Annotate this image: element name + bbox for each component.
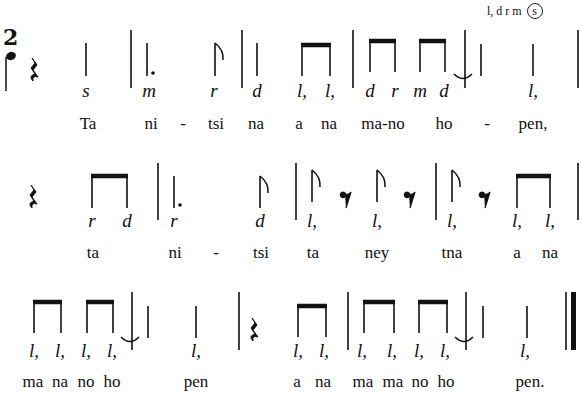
solfege-syllable: l, [528,80,538,102]
lyric-syllable: na [248,114,264,134]
solfege-syllable: m [413,80,427,102]
solfege-syllable: l, [55,340,65,362]
lyric-syllable: pen. [516,372,545,392]
lyric-syllable: ho [438,372,455,392]
lyric-syllable: a [513,243,521,263]
eighth-flag-icon [215,43,223,60]
tie-icon [455,337,473,342]
solfege-syllable: l, [81,340,91,362]
solfege-syllable: l, [325,80,335,102]
solfege-syllable: l, [293,340,303,362]
solfege-syllable: l, [29,340,39,362]
eighth-rest-icon [404,192,415,208]
solfege-syllable: l, [440,340,450,362]
lyric-syllable: na [52,372,68,392]
solfege-syllable: l, [414,340,424,362]
lyric-syllable: a [295,114,303,134]
solfege-syllable: l, [512,210,522,232]
solfege-syllable: l, [191,340,201,362]
solfege-syllable: l, [387,340,397,362]
lyric-syllable: no [78,372,95,392]
dot-icon [151,71,155,75]
staff-row-1 [5,30,578,91]
quarter-rest-icon [31,58,38,81]
solfege-syllable: d [122,210,132,232]
lyric-syllable: ma-no [361,114,404,134]
solfege-syllable: l, [307,210,317,232]
quarter-rest-icon [30,185,37,208]
lyric-syllable: tna [442,243,463,263]
lyric-syllable: ho [104,372,121,392]
solfege-syllable: d [252,80,262,102]
solfege-syllable: r [170,210,177,232]
solfege-syllable: r [210,80,217,102]
solfege-syllable: l, [297,80,307,102]
lyric-syllable: na [542,243,558,263]
lyric-syllable: tsi [208,114,224,134]
lyric-syllable: - [213,243,219,263]
solfege-syllable: d [439,80,449,102]
lyric-syllable: tsi [253,243,269,263]
lyric-syllable: ta [307,243,319,263]
eighth-rest-icon [340,192,351,208]
eighth-rest-icon [479,192,490,208]
solfege-syllable: l, [545,210,555,232]
solfege-syllable: l, [520,340,530,362]
solfege-syllable: l, [319,340,329,362]
final-barline-thick [571,292,576,350]
lyric-syllable: ma [383,372,404,392]
solfege-syllable: l, [372,210,382,232]
tie-icon [454,74,472,79]
lyric-syllable: na [315,372,331,392]
solfege-syllable: r [391,80,398,102]
lyric-syllable: pen, [519,114,548,134]
lyric-syllable: - [484,114,490,134]
lyric-syllable: ni [168,243,181,263]
quarter-rest-icon [251,318,258,341]
solfege-syllable: l, [447,210,457,232]
lyric-syllable: a [293,372,301,392]
solfege-syllable: m [142,80,156,102]
stick-notation-score [0,0,582,395]
tie-icon [121,337,139,342]
solfege-syllable: d [255,210,265,232]
solfege-syllable: r [88,210,95,232]
solfege-syllable: l, [357,340,367,362]
lyric-syllable: ma [23,372,44,392]
lyric-syllable: ney [365,243,390,263]
lyric-syllable: Ta [80,114,97,134]
lyric-syllable: na [321,114,337,134]
lyric-syllable: no [412,372,429,392]
lyric-syllable: pen [184,372,209,392]
staff-row-2 [30,163,578,220]
time-signature-note-icon [5,51,17,91]
lyric-syllable: ho [436,114,453,134]
lyric-syllable: - [180,114,186,134]
solfege-syllable: d [365,80,375,102]
lyric-syllable: ta [87,243,99,263]
lyric-syllable: ma [353,372,374,392]
solfege-syllable: l, [107,340,117,362]
solfege-syllable: s [82,80,89,102]
lyric-syllable: ni [144,114,157,134]
